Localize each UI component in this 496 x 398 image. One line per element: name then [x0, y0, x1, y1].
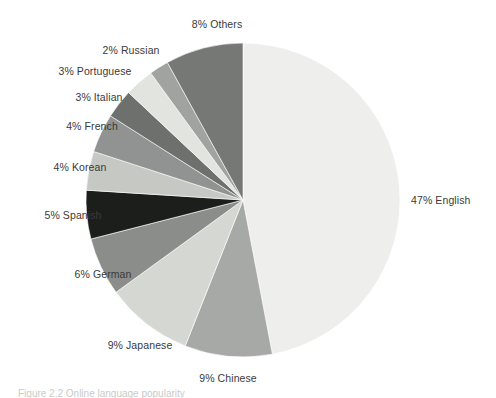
pie-chart-figure: 47% English9% Chinese9% Japanese6% Germa…: [0, 0, 496, 398]
pie-label-french: 4% French: [0, 120, 184, 132]
pie-slice-english[interactable]: [243, 43, 400, 354]
pie-label-others: 8% Others: [0, 18, 434, 30]
pie-label-russian: 2% Russian: [0, 44, 262, 56]
pie-label-japanese: 9% Japanese: [0, 339, 280, 351]
figure-caption: Figure 2.2 Online language popularity: [18, 388, 185, 398]
pie-label-chinese: 9% Chinese: [0, 372, 456, 384]
pie-label-portuguese: 3% Portuguese: [0, 65, 190, 77]
pie-label-korean: 4% Korean: [0, 161, 160, 173]
pie-label-german: 6% German: [0, 268, 206, 280]
pie-label-italian: 3% Italian: [0, 91, 198, 103]
pie-label-english: 47% English: [411, 194, 470, 206]
pie-label-spanish: 5% Spanish: [0, 209, 146, 221]
